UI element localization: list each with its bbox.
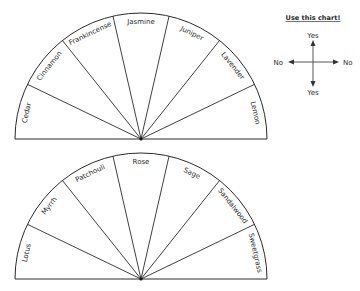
arrowhead-down-icon — [311, 81, 316, 87]
arrowhead-up-icon — [311, 40, 316, 46]
legend: Use this chart! Yes Yes No No — [273, 14, 352, 97]
pendulum-charts: CedarCinnamonFrankincenseJasmineJuniperL… — [0, 0, 360, 291]
cross-arrows-icon — [288, 40, 339, 87]
pendulum-chart-top: CedarCinnamonFrankincenseJasmineJuniperL… — [15, 13, 267, 141]
arrowhead-right-icon — [333, 60, 339, 65]
arrowhead-left-icon — [288, 60, 294, 65]
legend-no-right: No — [343, 59, 353, 67]
legend-yes-bottom: Yes — [306, 89, 319, 97]
slice-label: Jasmine — [126, 18, 155, 26]
slice-label: Rose — [133, 158, 150, 166]
pendulum-chart-bottom: LotusMyrrhPatchouliRoseSageSandalwoodSwe… — [15, 153, 267, 281]
legend-no-left: No — [273, 59, 283, 67]
legend-yes-top: Yes — [306, 32, 319, 40]
legend-title: Use this chart! — [286, 14, 341, 22]
